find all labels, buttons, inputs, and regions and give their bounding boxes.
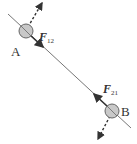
label-b: B [121, 104, 130, 119]
force-label-f21: F21 [102, 82, 119, 97]
dashed-arrow-b [98, 116, 110, 139]
label-a: A [11, 44, 21, 59]
dashed-arrow-a [28, 3, 42, 27]
force-diagram: A B F12 F21 [0, 0, 137, 144]
force-label-f12: F12 [38, 30, 55, 45]
